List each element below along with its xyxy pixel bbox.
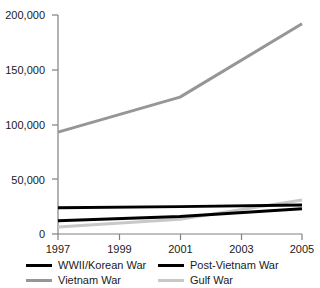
legend-label: Post-Vietnam War: [190, 259, 279, 272]
x-tick-label: 2001: [168, 243, 192, 255]
x-tick-label: 2003: [229, 243, 253, 255]
legend-entry-gulf-war: Gulf War: [158, 274, 294, 287]
series-line: [58, 24, 302, 132]
x-tick-label: 1999: [107, 243, 131, 255]
legend-entry-post-vietnam-war: Post-Vietnam War: [158, 259, 294, 272]
legend-label: WWII/Korean War: [58, 259, 146, 272]
legend-swatch-icon: [158, 264, 184, 267]
x-axis: [58, 234, 302, 240]
legend-row: WWII/Korean War Post-Vietnam War: [0, 258, 320, 273]
legend-label: Vietnam War: [58, 274, 121, 287]
line-chart: 200,000 150,000 100,000 50,000 0 1997 19…: [0, 0, 320, 288]
legend-swatch-icon: [158, 279, 184, 282]
y-tick-label: 150,000: [5, 64, 45, 76]
legend-entry-wwii-korean-war: WWII/Korean War: [26, 259, 158, 272]
legend-swatch-icon: [26, 264, 52, 267]
y-axis-tick-labels: 200,000 150,000 100,000 50,000 0: [5, 9, 45, 240]
legend-row: Vietnam War Gulf War: [0, 273, 320, 288]
x-tick-label: 1997: [46, 243, 70, 255]
legend-swatch-icon: [26, 279, 52, 282]
legend-label: Gulf War: [190, 274, 233, 287]
y-tick-label: 50,000: [11, 174, 45, 186]
y-tick-label: 100,000: [5, 119, 45, 131]
y-axis: [52, 15, 58, 234]
legend-entry-vietnam-war: Vietnam War: [26, 274, 158, 287]
y-tick-label: 200,000: [5, 9, 45, 21]
chart-plot-area: 200,000 150,000 100,000 50,000 0 1997 19…: [0, 0, 320, 288]
data-series-layer: [58, 24, 302, 227]
x-axis-tick-labels: 1997 1999 2001 2003 2005: [46, 243, 314, 255]
chart-legend: WWII/Korean War Post-Vietnam War Vietnam…: [0, 258, 320, 288]
y-tick-label: 0: [39, 228, 45, 240]
x-tick-label: 2005: [290, 243, 314, 255]
